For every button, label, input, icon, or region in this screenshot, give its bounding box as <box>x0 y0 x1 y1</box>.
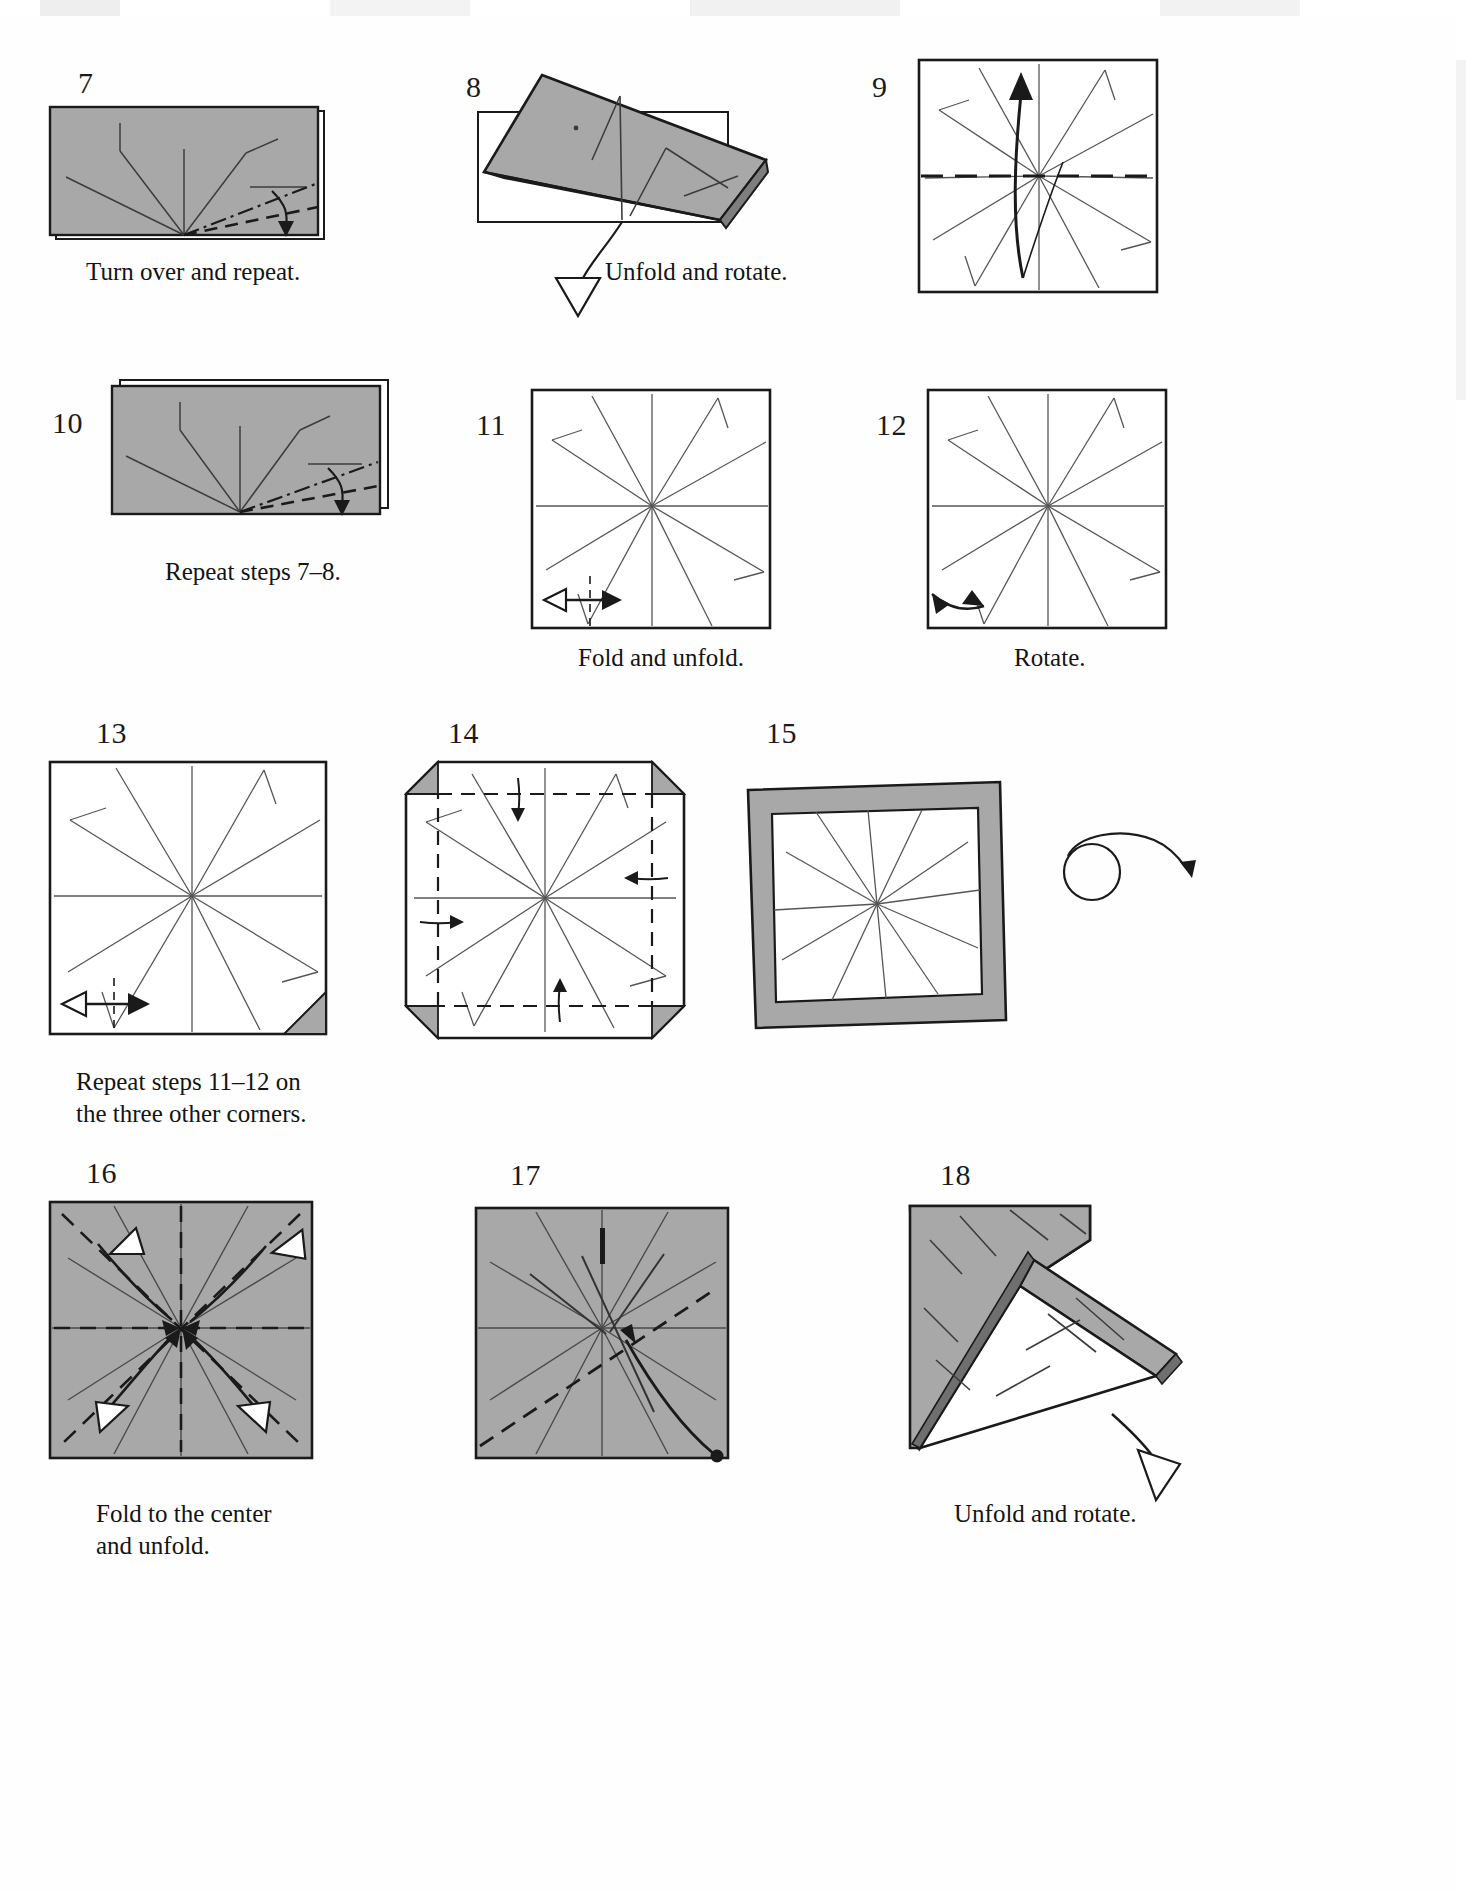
step-caption-13: Repeat steps 11–12 on the three other co… <box>76 1066 306 1130</box>
step-number-11: 11 <box>476 408 506 442</box>
step-number-9: 9 <box>872 70 888 104</box>
step-number-14: 14 <box>448 716 479 750</box>
step-figure-17 <box>474 1206 734 1462</box>
step-caption-18: Unfold and rotate. <box>954 1498 1137 1530</box>
step-caption-7: Turn over and repeat. <box>86 256 300 288</box>
step-number-7: 7 <box>78 66 94 100</box>
turn-over-symbol <box>1050 830 1200 910</box>
step-caption-11: Fold and unfold. <box>578 642 744 674</box>
step-figure-18 <box>900 1200 1190 1470</box>
step-number-18: 18 <box>940 1158 971 1192</box>
step-number-10: 10 <box>52 406 83 440</box>
step-figure-12 <box>926 388 1172 634</box>
scan-edge-right <box>1456 0 1466 1891</box>
step-caption-16: Fold to the center and unfold. <box>96 1498 272 1562</box>
step-number-16: 16 <box>86 1156 117 1190</box>
step-number-13: 13 <box>96 716 127 750</box>
step-figure-9 <box>917 58 1163 298</box>
step-figure-7 <box>50 105 340 250</box>
step-figure-15 <box>746 780 1008 1032</box>
scan-edge-top <box>0 0 1466 16</box>
step-figure-14 <box>400 758 690 1042</box>
step-caption-8: Unfold and rotate. <box>605 256 788 288</box>
step-caption-10: Repeat steps 7–8. <box>165 556 341 588</box>
step-number-12: 12 <box>876 408 907 442</box>
step-figure-10 <box>112 376 402 526</box>
step-caption-12: Rotate. <box>1014 642 1086 674</box>
step-number-15: 15 <box>766 716 797 750</box>
step-figure-16 <box>48 1200 316 1462</box>
step-figure-11 <box>530 388 776 634</box>
step-figure-13 <box>48 760 330 1038</box>
step-number-17: 17 <box>510 1158 541 1192</box>
diagram-page: 7 Turn over and repeat. 8 <box>0 0 1466 1891</box>
